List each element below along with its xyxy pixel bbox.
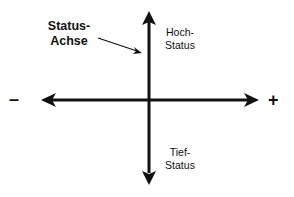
arrow-down-icon (142, 171, 156, 185)
vertical-status-axis (142, 11, 156, 185)
axis-title-pointer (98, 38, 142, 54)
negative-sign-label: – (9, 90, 19, 108)
positive-sign-label: + (268, 91, 279, 109)
high-status-label: Hoch- Status (158, 26, 202, 51)
low-status-label: Tief- Status (158, 146, 202, 171)
axis-title-label: Status- Achse (38, 19, 100, 49)
